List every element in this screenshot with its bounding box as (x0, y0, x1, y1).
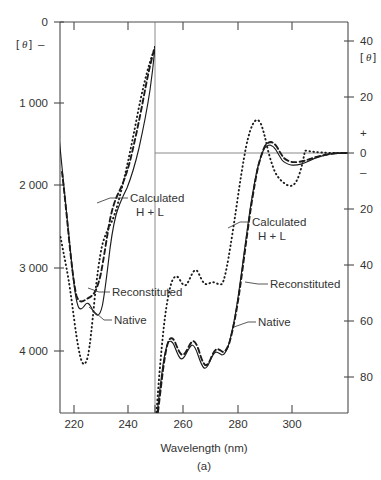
right-ytick-label-40n: 40 (360, 259, 373, 271)
left-axis-bracket-close: ] (29, 38, 32, 50)
annotation-native-left: Native (89, 307, 147, 326)
annot-calculated-right-line2: H + L (258, 230, 286, 242)
cd-spectra-figure: 0 1 000 2 000 3 000 4 000 [ θ ] – 40 20 … (0, 0, 381, 480)
left-axis-title: [ θ ] – (16, 38, 45, 50)
xtick-label-260: 260 (173, 418, 192, 430)
annot-calculated-right-line1: Calculated (252, 216, 306, 228)
right-ytick-label-20p: 20 (360, 91, 373, 103)
figure-caption: (a) (197, 460, 211, 472)
right-axis-title: [ θ ] (360, 51, 376, 63)
figure-container: 0 1 000 2 000 3 000 4 000 [ θ ] – 40 20 … (0, 0, 381, 480)
xtick-label-220: 220 (64, 418, 83, 430)
annot-native-right: Native (258, 316, 291, 328)
annot-reconstituted-left: Reconstituted (112, 286, 182, 298)
xtick-label-280: 280 (228, 418, 247, 430)
left-axis-sign: – (38, 38, 45, 50)
annotation-native-right: Native (234, 316, 291, 328)
annot-native-left: Native (114, 314, 147, 326)
annotation-calculated-left: Calculated H + L (97, 192, 184, 218)
right-axis-theta: θ (366, 51, 372, 63)
right-ytick-label-60n: 60 (360, 315, 373, 327)
annotation-reconstituted-left: Reconstituted (88, 286, 182, 298)
right-ytick-label-40p: 40 (360, 35, 373, 47)
right-axis-bracket-close: ] (373, 51, 376, 63)
right-ytick-label-80n: 80 (360, 371, 373, 383)
left-axis-bracket-open: [ (16, 38, 20, 50)
left-axis-theta: θ (22, 38, 28, 50)
annotation-reconstituted-right: Reconstituted (245, 278, 340, 290)
curve-calculated-hl-right (156, 120, 347, 420)
right-axis-minus-sign: – (360, 166, 367, 178)
right-ytick-label-20n: 20 (360, 203, 373, 215)
right-axis-ticks (344, 41, 354, 377)
annot-reconstituted-right: Reconstituted (270, 278, 340, 290)
right-axis-bracket-open: [ (360, 51, 364, 63)
x-axis-title: Wavelength (nm) (160, 442, 247, 454)
left-ytick-label-1000: 1 000 (19, 97, 48, 109)
annot-calculated-left-line2: H + L (136, 206, 164, 218)
annot-calculated-left-line1: Calculated (130, 192, 184, 204)
xtick-label-300: 300 (282, 418, 301, 430)
right-ytick-label-0: 0 (360, 147, 366, 159)
right-panel-curves (156, 120, 348, 420)
right-axis-plus-sign: + (360, 127, 367, 139)
left-ytick-label-2000: 2 000 (19, 179, 48, 191)
left-ytick-label-4000: 4 000 (19, 345, 48, 357)
annotation-calculated-right: Calculated H + L (228, 216, 306, 242)
left-ytick-label-0: 0 (42, 16, 48, 28)
left-axis-ticks (54, 22, 64, 351)
xtick-label-240: 240 (118, 418, 137, 430)
left-ytick-label-3000: 3 000 (19, 262, 48, 274)
